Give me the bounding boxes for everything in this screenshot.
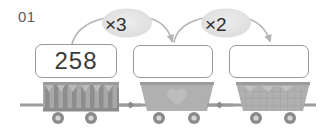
problem-number: 01	[18, 8, 36, 25]
cart-3	[236, 82, 310, 124]
coupler-2	[207, 102, 233, 109]
cart-1	[43, 82, 119, 124]
coupler-1	[119, 102, 141, 109]
operation-label-1: ×3	[105, 15, 127, 34]
cart-2-wheels	[153, 112, 200, 124]
answer-box-3[interactable]	[229, 45, 309, 78]
operation-label-2: ×2	[205, 15, 227, 34]
cart-3-wheels	[250, 112, 296, 124]
answer-box-1-value: 258	[54, 49, 97, 73]
answer-box-1[interactable]: 258	[35, 44, 117, 78]
worksheet-problem: 01 ×3 ×2 258	[0, 0, 328, 132]
cart-1-wheels	[52, 112, 97, 124]
answer-box-2[interactable]	[133, 45, 213, 78]
cart-2	[140, 82, 214, 124]
